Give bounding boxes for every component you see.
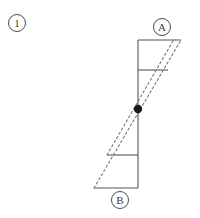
deformed-outline-inner-dashed — [107, 41, 173, 155]
joint-dot — [134, 105, 142, 113]
node-b-label: B — [111, 191, 129, 209]
figure-index-label: 1 — [8, 14, 26, 32]
node-a-label: A — [153, 18, 171, 36]
structural-diagram-svg — [0, 0, 200, 218]
figure-container: 1 A B — [0, 0, 200, 218]
